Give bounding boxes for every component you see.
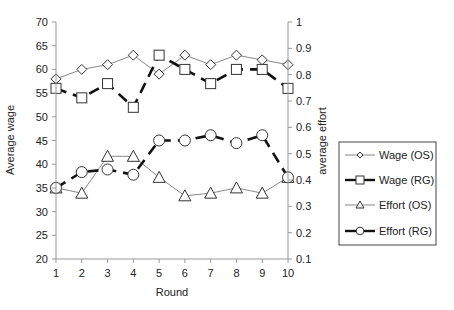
y2-tick-label: 0.4 (296, 174, 311, 186)
legend-label: Effort (OS) (379, 199, 431, 211)
x-tick-label: 1 (53, 267, 59, 279)
y2-tick-label: 0.1 (296, 253, 311, 265)
circle-marker (205, 130, 216, 141)
diamond-marker (257, 55, 267, 65)
diamond-marker (231, 50, 241, 60)
legend-label: Wage (RG) (379, 174, 434, 186)
x-tick-label: 7 (208, 267, 214, 279)
y-tick-label: 40 (36, 158, 48, 170)
y-tick-label: 20 (36, 253, 48, 265)
x-tick-label: 4 (130, 267, 136, 279)
square-marker (103, 79, 113, 89)
x-tick-label: 6 (182, 267, 188, 279)
series-line (56, 156, 288, 196)
y2-tick-label: 0.8 (296, 69, 311, 81)
y-tick-label: 30 (36, 206, 48, 218)
series-line (56, 55, 288, 107)
circle-icon (356, 227, 364, 235)
circle-marker (179, 135, 190, 146)
circle-marker (76, 167, 87, 178)
circle-marker (128, 169, 139, 180)
square-marker (257, 64, 267, 74)
square-marker (180, 64, 190, 74)
diamond-marker (77, 64, 87, 74)
x-tick-label: 9 (259, 267, 265, 279)
chart: 20253035404550556065700.10.20.30.40.50.6… (0, 0, 454, 310)
x-tick-label: 2 (79, 267, 85, 279)
diamond-marker (154, 69, 164, 79)
y-tick-label: 45 (36, 135, 48, 147)
diamond-marker (128, 50, 138, 60)
legend-item: Wage (RG) (345, 174, 434, 186)
y2-axis-title: average effort (316, 107, 328, 175)
y2-tick-label: 0.6 (296, 121, 311, 133)
y-tick-label: 60 (36, 63, 48, 75)
y-tick-label: 70 (36, 16, 48, 28)
x-tick-label: 8 (233, 267, 239, 279)
circle-marker (154, 135, 165, 146)
diamond-marker (206, 60, 216, 70)
circle-marker (257, 130, 268, 141)
y-tick-label: 55 (36, 87, 48, 99)
legend-label: Wage (OS) (379, 149, 434, 161)
y-tick-label: 50 (36, 111, 48, 123)
x-axis-title: Round (156, 286, 188, 298)
y-axis-title: Average wage (4, 105, 16, 175)
square-marker (77, 93, 87, 103)
triangle-marker (230, 182, 242, 193)
x-tick-label: 3 (104, 267, 110, 279)
x-tick-label: 5 (156, 267, 162, 279)
y-tick-label: 65 (36, 40, 48, 52)
y-tick-label: 25 (36, 229, 48, 241)
y2-tick-label: 0.5 (296, 148, 311, 160)
x-tick-label: 10 (282, 267, 294, 279)
diamond-marker (103, 60, 113, 70)
series-wage-os (51, 50, 293, 84)
diamond-marker (180, 50, 190, 60)
axes: 20253035404550556065700.10.20.30.40.50.6… (36, 16, 312, 279)
square-icon (356, 176, 364, 184)
triangle-marker (153, 171, 165, 182)
series-line (56, 55, 288, 79)
circle-marker (231, 138, 242, 149)
series-wage-rg (51, 50, 293, 112)
square-marker (231, 64, 241, 74)
square-marker (128, 102, 138, 112)
y2-tick-label: 1 (296, 16, 302, 28)
y2-tick-label: 0.9 (296, 42, 311, 54)
legend: Wage (OS)Wage (RG)Effort (OS)Effort (RG) (339, 142, 436, 245)
y2-tick-label: 0.7 (296, 95, 311, 107)
series-effort-rg (51, 130, 294, 194)
y-tick-label: 35 (36, 182, 48, 194)
square-marker (206, 79, 216, 89)
legend-label: Effort (RG) (379, 225, 432, 237)
circle-marker (102, 164, 113, 175)
plot-series (50, 50, 294, 201)
square-marker (154, 50, 164, 60)
y2-tick-label: 0.2 (296, 227, 311, 239)
y2-tick-label: 0.3 (296, 200, 311, 212)
